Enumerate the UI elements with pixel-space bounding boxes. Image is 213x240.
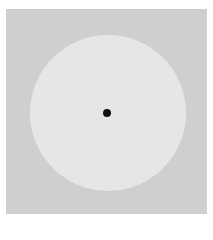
fixation-dot <box>103 109 111 117</box>
